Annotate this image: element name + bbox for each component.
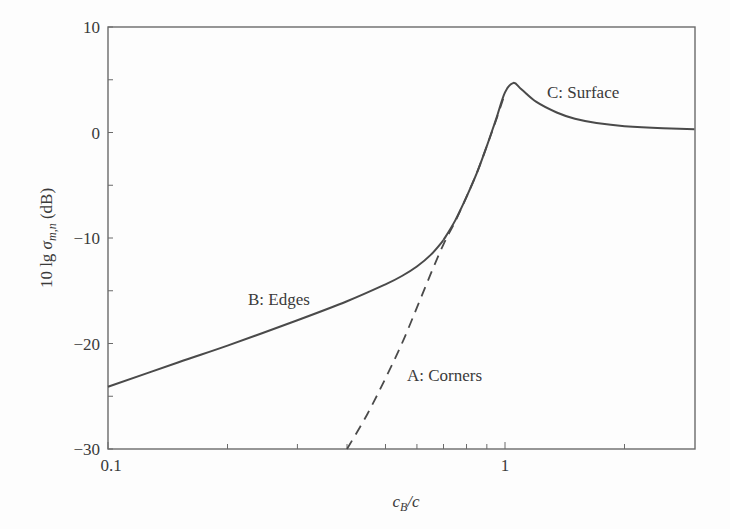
annotation-surface: C: Surface [547,83,619,102]
y-tick-label: −20 [73,335,100,354]
y-tick-label: −10 [73,229,100,248]
annotation-corners: A: Corners [407,366,482,385]
data-series [108,83,694,449]
x-tick-label: 0.1 [100,456,121,475]
x-axis-label: cB/c [392,492,420,514]
series-corners-line [347,94,505,450]
y-tick-label: −30 [73,440,100,459]
series-edges-line [108,240,444,387]
y-tick-label: 10 [83,18,100,37]
y-tick-label: 0 [92,124,101,143]
x-tick-label: 1 [501,456,510,475]
y-axis-label: 10 lg σm,n (dB) [37,188,59,288]
series-surface-line [444,83,695,240]
chart: 10 0 −10 −20 −30 0.1 1 cB/c 10 lg σm,n (… [0,0,730,529]
annotation-edges: B: Edges [248,290,310,309]
